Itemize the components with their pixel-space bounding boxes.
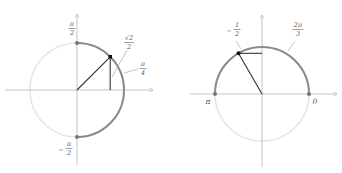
endpoint-top [75, 41, 79, 45]
svg-text:π: π [140, 60, 146, 68]
svg-text:π: π [66, 140, 72, 148]
svg-text:2: 2 [234, 30, 239, 38]
label-2pi-over-3: 2π 3 [293, 21, 304, 38]
endpoint-bottom [75, 135, 79, 139]
svg-text:4: 4 [140, 69, 145, 77]
svg-text:−: − [226, 27, 231, 35]
angle-point [237, 51, 241, 55]
diagram-canvas: π 2 − π 2 √2 2 π 4 [0, 0, 342, 173]
svg-text:−: − [58, 146, 63, 154]
svg-text:2: 2 [69, 29, 74, 37]
angle-point [109, 55, 113, 59]
svg-text:3: 3 [296, 30, 300, 38]
endpoint-pi [213, 92, 217, 96]
label-pi-over-4: π 4 [140, 60, 147, 77]
value-leader [236, 41, 241, 49]
label-neg-one-half: − 1 2 [226, 21, 240, 38]
svg-text:π: π [69, 20, 75, 28]
radius-line [239, 53, 263, 94]
left-diagram: π 2 − π 2 √2 2 π 4 [5, 14, 153, 165]
right-diagram: − 1 2 2π 3 π 0 [190, 15, 337, 167]
label-pi: π [205, 97, 212, 106]
angle-leader [288, 41, 295, 51]
angle-leader [124, 69, 138, 73]
endpoint-zero [307, 92, 311, 96]
svg-text:√2: √2 [125, 34, 133, 42]
svg-text:1: 1 [235, 21, 239, 29]
svg-text:2π: 2π [293, 21, 303, 29]
svg-text:2: 2 [126, 43, 131, 51]
svg-text:2: 2 [66, 149, 71, 157]
label-neg-pi-over-2: − π 2 [58, 140, 72, 157]
radius-line [77, 57, 110, 90]
label-sqrt2-over-2: √2 2 [124, 34, 134, 51]
label-pi-over-2: π 2 [69, 20, 76, 37]
label-zero: 0 [313, 97, 318, 106]
